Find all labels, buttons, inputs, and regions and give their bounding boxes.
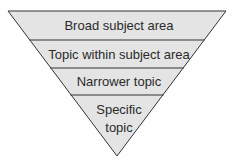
level-4-label-line2: topic	[0, 120, 238, 135]
level-2-label: Topic within subject area	[0, 47, 238, 62]
inverted-pyramid-diagram: Broad subject area Topic within subject …	[0, 0, 238, 168]
level-1-label: Broad subject area	[0, 18, 238, 33]
level-3-label: Narrower topic	[0, 74, 238, 89]
level-4-label-line1: Specific	[0, 102, 238, 117]
